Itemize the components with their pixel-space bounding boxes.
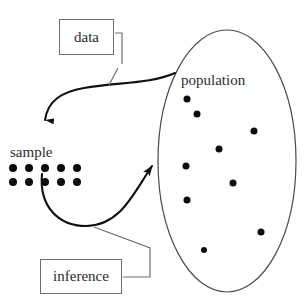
sample-dot bbox=[9, 178, 17, 186]
sample-dot bbox=[57, 178, 65, 186]
diagram-canvas: data inference population sample bbox=[0, 0, 304, 307]
population-dot-group bbox=[183, 96, 265, 254]
population-dot bbox=[230, 180, 237, 187]
sample-label: sample bbox=[10, 145, 53, 160]
sample-dot bbox=[25, 178, 33, 186]
sample-dot-grid bbox=[9, 164, 85, 192]
population-ellipse bbox=[158, 30, 296, 292]
sample-dot bbox=[41, 164, 49, 172]
sample-dot bbox=[25, 164, 33, 172]
population-dot bbox=[194, 111, 201, 118]
population-label: population bbox=[181, 73, 245, 88]
sample-dot bbox=[41, 178, 49, 186]
population-dot bbox=[201, 247, 207, 253]
sample-dot bbox=[73, 178, 81, 186]
arrow-population-to-sample bbox=[45, 73, 175, 120]
population-dot bbox=[184, 96, 191, 103]
node-box-inference-label: inference bbox=[53, 269, 109, 284]
sample-dot bbox=[9, 164, 17, 172]
sample-dot-row bbox=[9, 164, 85, 178]
population-dot bbox=[183, 163, 190, 170]
node-box-data[interactable]: data bbox=[59, 19, 114, 55]
node-box-inference[interactable]: inference bbox=[40, 259, 122, 294]
node-box-data-label: data bbox=[74, 30, 99, 45]
population-dot bbox=[258, 229, 265, 236]
population-dot bbox=[216, 146, 223, 153]
sample-dot bbox=[57, 164, 65, 172]
sample-dot bbox=[73, 164, 81, 172]
population-dot bbox=[184, 197, 191, 204]
population-dot bbox=[251, 128, 258, 135]
sample-dot-row bbox=[9, 178, 85, 192]
